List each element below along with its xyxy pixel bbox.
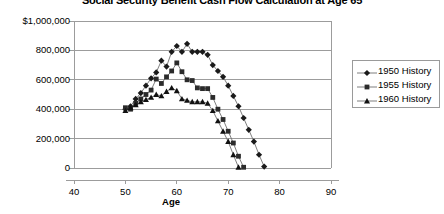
chart-legend: 1950 History1955 History1960 History bbox=[352, 60, 440, 108]
y-axis-tick-label: 400,000 bbox=[0, 103, 70, 114]
diamond-marker-icon bbox=[356, 65, 378, 77]
legend-item-label: 1960 History bbox=[378, 93, 431, 105]
triangle-marker-icon bbox=[356, 93, 378, 105]
legend-item[interactable]: 1955 History bbox=[353, 78, 439, 92]
y-axis-tick-label: 0 bbox=[0, 162, 70, 173]
y-axis-tick-label: 600,000 bbox=[0, 74, 70, 85]
square-marker-icon bbox=[356, 79, 378, 91]
y-axis-tick-label: 800,000 bbox=[0, 44, 70, 55]
legend-item[interactable]: 1960 History bbox=[353, 92, 439, 106]
y-axis-tick-label: 200,000 bbox=[0, 133, 70, 144]
y-axis-tick-label: $1,000,000 bbox=[0, 15, 70, 26]
x-axis-title-text: Age bbox=[162, 196, 180, 207]
legend-item[interactable]: 1950 History bbox=[353, 64, 439, 78]
legend-item-label: 1950 History bbox=[378, 65, 431, 77]
x-axis-title: Age bbox=[0, 196, 444, 207]
legend-item-label: 1955 History bbox=[378, 79, 431, 91]
chart-container: Social Security Benefit Cash Flow Calcul… bbox=[0, 0, 444, 214]
